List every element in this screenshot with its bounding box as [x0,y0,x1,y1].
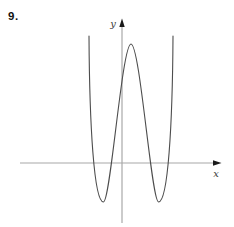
function-curve [89,36,173,202]
y-axis-arrow-icon [119,19,124,28]
x-axis-arrow-icon [213,160,222,165]
x-axis-label: x [213,168,219,179]
figure-page: 9. y x [0,0,234,227]
function-graph-figure: y x [0,0,234,227]
y-axis-label: y [109,18,116,29]
